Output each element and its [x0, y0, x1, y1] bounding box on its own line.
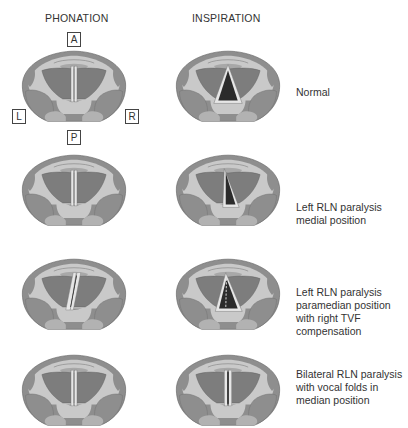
posterior-label: P	[67, 130, 81, 145]
caption-left-medial: Left RLN paralysis medial position	[296, 201, 382, 227]
larynx-phonation-bilateral	[18, 352, 130, 428]
inspiration-header: INSPIRATION	[192, 12, 261, 24]
larynx-phonation-normal	[18, 48, 130, 126]
caption-left-paramedian: Left RLN paralysis paramedian position w…	[296, 286, 391, 338]
phonation-header: PHONATION	[45, 12, 108, 24]
caption-bilateral: Bilateral RLN paralysis with vocal folds…	[296, 368, 402, 407]
larynx-inspiration-normal	[172, 48, 284, 126]
larynx-inspiration-bilateral	[172, 352, 284, 428]
larynx-phonation-left-medial	[18, 152, 130, 230]
larynx-phonation-left-paramedian	[18, 256, 130, 334]
larynx-inspiration-left-medial	[172, 152, 284, 230]
caption-normal: Normal	[296, 86, 330, 99]
anterior-label: A	[67, 32, 81, 47]
larynx-inspiration-left-paramedian	[172, 256, 284, 334]
